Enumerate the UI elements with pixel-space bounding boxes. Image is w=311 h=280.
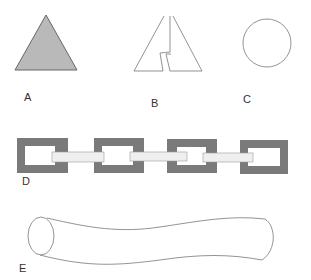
label-d: D (22, 175, 30, 187)
panel-d-chain (17, 138, 288, 174)
shapes-figure (0, 0, 311, 280)
label-e: E (19, 262, 26, 274)
label-a: A (24, 91, 31, 103)
label-c: C (243, 93, 251, 105)
panel-a-triangle (15, 15, 77, 70)
label-b: B (151, 97, 158, 109)
panel-c-circle (243, 19, 291, 67)
panel-b-split-triangle (134, 16, 202, 71)
panel-e-tube (28, 217, 273, 264)
